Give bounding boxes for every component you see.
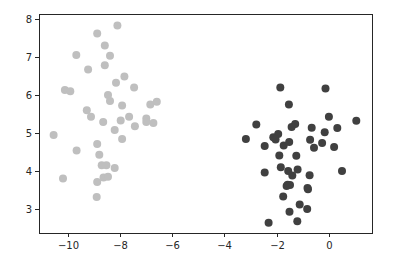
data-point (306, 136, 314, 144)
y-tick-label: 4 (26, 166, 32, 177)
data-point (113, 21, 121, 29)
data-point (325, 113, 333, 121)
data-point (95, 151, 103, 159)
data-point (242, 135, 250, 143)
data-point (318, 139, 326, 147)
x-tick-label: −10 (58, 240, 79, 251)
data-point (117, 117, 125, 125)
data-point (288, 172, 296, 180)
data-point (99, 118, 107, 126)
data-point (292, 152, 300, 160)
plot-area (50, 21, 361, 226)
data-point (87, 113, 95, 121)
data-point (125, 113, 133, 121)
data-point (322, 85, 330, 93)
data-point (296, 201, 304, 209)
data-point (153, 98, 161, 106)
x-axis: −10−8−6−4−20 (58, 233, 333, 251)
data-point (338, 167, 346, 175)
data-point (285, 138, 293, 146)
scatter-chart: −10−8−6−4−20 345678 (0, 0, 394, 265)
data-point (308, 124, 316, 132)
data-point (93, 178, 101, 186)
x-tick-label: −8 (113, 240, 128, 251)
data-point (261, 142, 269, 150)
data-point (59, 175, 67, 183)
data-point (72, 51, 80, 59)
data-point (111, 126, 119, 134)
data-point (101, 61, 109, 69)
y-tick-label: 3 (26, 204, 32, 215)
data-point (111, 164, 119, 172)
data-point (310, 144, 318, 152)
y-tick-label: 5 (26, 128, 32, 139)
y-tick-label: 8 (26, 14, 32, 25)
data-point (118, 135, 126, 143)
data-point (106, 97, 114, 105)
data-point (352, 117, 360, 125)
x-tick-label: −6 (165, 240, 180, 251)
data-point (252, 121, 260, 129)
data-point (93, 140, 101, 148)
data-point (118, 102, 126, 110)
data-point (275, 151, 283, 159)
data-point (261, 169, 269, 177)
data-point (106, 52, 114, 60)
data-point (265, 219, 273, 227)
series-cluster-light (50, 21, 161, 201)
data-point (304, 185, 312, 193)
data-point (149, 119, 157, 127)
data-point (104, 173, 112, 181)
series-cluster-dark (242, 83, 360, 226)
data-point (330, 143, 338, 151)
data-point (84, 66, 92, 74)
data-point (50, 131, 58, 139)
data-point (279, 193, 287, 201)
data-point (272, 136, 280, 144)
y-tick-label: 7 (26, 52, 32, 63)
data-point (286, 181, 294, 189)
data-point (130, 83, 138, 91)
data-point (66, 87, 74, 95)
y-axis: 345678 (26, 14, 39, 215)
data-point (93, 29, 101, 37)
data-point (101, 42, 109, 50)
data-point (293, 217, 301, 225)
data-point (120, 72, 128, 80)
data-point (102, 161, 110, 169)
data-point (142, 118, 150, 126)
data-point (131, 122, 139, 130)
data-point (303, 205, 311, 213)
data-point (276, 83, 284, 91)
axes-frame (40, 15, 373, 234)
data-point (277, 163, 285, 171)
data-point (73, 147, 81, 155)
data-point (93, 193, 101, 201)
x-tick-label: −4 (217, 240, 232, 251)
data-point (333, 124, 341, 132)
data-point (306, 171, 314, 179)
data-point (288, 123, 296, 131)
data-point (321, 128, 329, 136)
data-point (294, 166, 302, 174)
x-tick-label: −2 (270, 240, 285, 251)
data-point (285, 101, 293, 109)
y-tick-label: 6 (26, 90, 32, 101)
x-tick-label: 0 (326, 240, 332, 251)
data-point (112, 79, 120, 87)
data-point (286, 208, 294, 216)
